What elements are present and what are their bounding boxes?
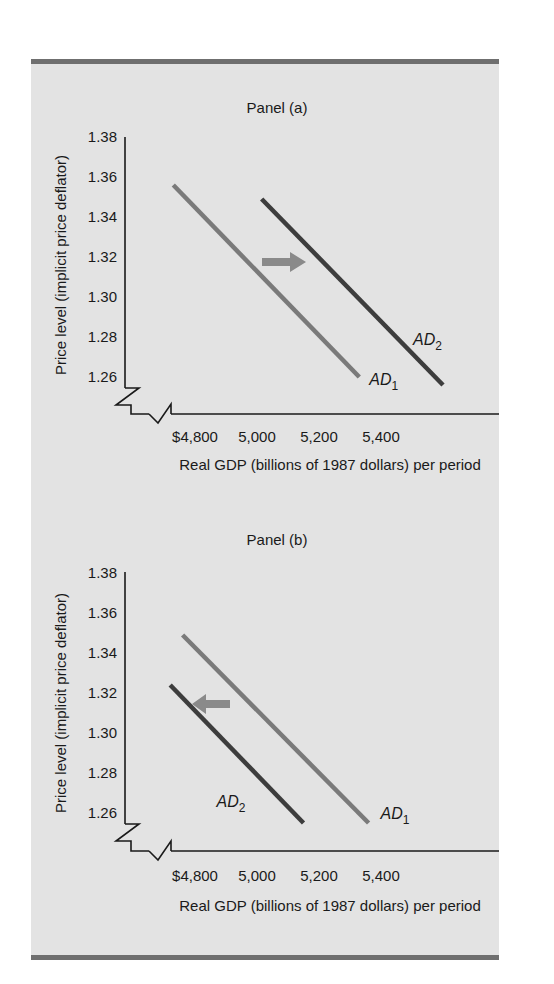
x-tick-label: 5,000 xyxy=(238,867,276,884)
x-tick-label: 5,200 xyxy=(300,867,338,884)
y-tick-label: 1.28 xyxy=(88,764,117,781)
curve-label-ad2: AD2 xyxy=(216,793,246,815)
chart-canvas: Panel (a)Price level (implicit price def… xyxy=(31,64,499,955)
curve-label-ad1: AD1 xyxy=(380,805,410,827)
y-tick-label: 1.32 xyxy=(88,684,117,701)
y-tick-label: 1.28 xyxy=(88,328,117,345)
y-axis-title: Price level (implicit price deflator) xyxy=(52,593,69,813)
y-axis-title: Price level (implicit price deflator) xyxy=(52,155,69,375)
x-tick-label: 5,200 xyxy=(300,428,338,445)
panel-title: Panel (b) xyxy=(247,531,308,548)
y-tick-label: 1.34 xyxy=(88,208,117,225)
y-tick-label: 1.30 xyxy=(88,288,117,305)
shift-arrow-right-icon xyxy=(262,252,306,272)
y-tick-label: 1.26 xyxy=(88,368,117,385)
curve-label-ad2: AD2 xyxy=(412,331,442,353)
axis-break-icon xyxy=(116,824,149,851)
y-tick-label: 1.34 xyxy=(88,644,117,661)
x-axis-title: Real GDP (billions of 1987 dollars) per … xyxy=(179,897,481,914)
x-tick-label: $4,800 xyxy=(172,428,218,445)
y-tick-label: 1.36 xyxy=(88,604,117,621)
y-tick-label: 1.26 xyxy=(88,804,117,821)
x-tick-label: $4,800 xyxy=(172,867,218,884)
panel-title: Panel (a) xyxy=(247,99,308,116)
axis-break-icon xyxy=(116,388,149,414)
figure-box: Panel (a)Price level (implicit price def… xyxy=(31,59,499,960)
curve-ad1 xyxy=(173,185,359,377)
x-tick-label: 5,400 xyxy=(362,867,400,884)
axis-break-icon xyxy=(149,404,171,423)
y-tick-label: 1.38 xyxy=(88,564,117,581)
y-tick-label: 1.30 xyxy=(88,724,117,741)
x-tick-label: 5,000 xyxy=(238,428,276,445)
y-tick-label: 1.38 xyxy=(88,128,117,145)
y-tick-label: 1.36 xyxy=(88,168,117,185)
curve-ad2 xyxy=(262,199,443,385)
x-axis-title: Real GDP (billions of 1987 dollars) per … xyxy=(179,456,481,473)
curve-label-ad1: AD1 xyxy=(368,371,398,393)
axis-break-icon xyxy=(149,841,171,860)
y-tick-label: 1.32 xyxy=(88,248,117,265)
x-tick-label: 5,400 xyxy=(362,428,400,445)
